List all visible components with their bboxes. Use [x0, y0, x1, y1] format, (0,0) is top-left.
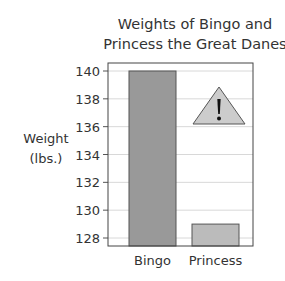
y-tick-label: 128: [75, 231, 100, 246]
warning-icon: [193, 87, 245, 124]
y-tick-label: 138: [75, 92, 100, 107]
x-tick-label: Princess: [189, 253, 243, 268]
y-tick-label: 132: [75, 175, 100, 190]
y-axis-ticks: 128130132134136138140: [75, 64, 108, 246]
bar-chart: Weights of Bingo and Princess the Great …: [0, 0, 285, 281]
x-tick-label: Bingo: [134, 253, 171, 268]
bar-bingo: [129, 71, 176, 246]
y-tick-label: 136: [75, 120, 100, 135]
y-tick-label: 140: [75, 64, 100, 79]
y-axis-label-line-2: (lbs.): [30, 151, 63, 166]
bar-princess: [192, 224, 239, 246]
x-axis-labels: BingoPrincess: [134, 253, 242, 268]
y-axis-label-line-1: Weight: [23, 131, 68, 146]
chart-title-line-2: Princess the Great Danes: [103, 36, 285, 52]
chart-title-line-1: Weights of Bingo and: [118, 16, 272, 32]
y-tick-label: 130: [75, 203, 100, 218]
y-tick-label: 134: [75, 148, 100, 163]
